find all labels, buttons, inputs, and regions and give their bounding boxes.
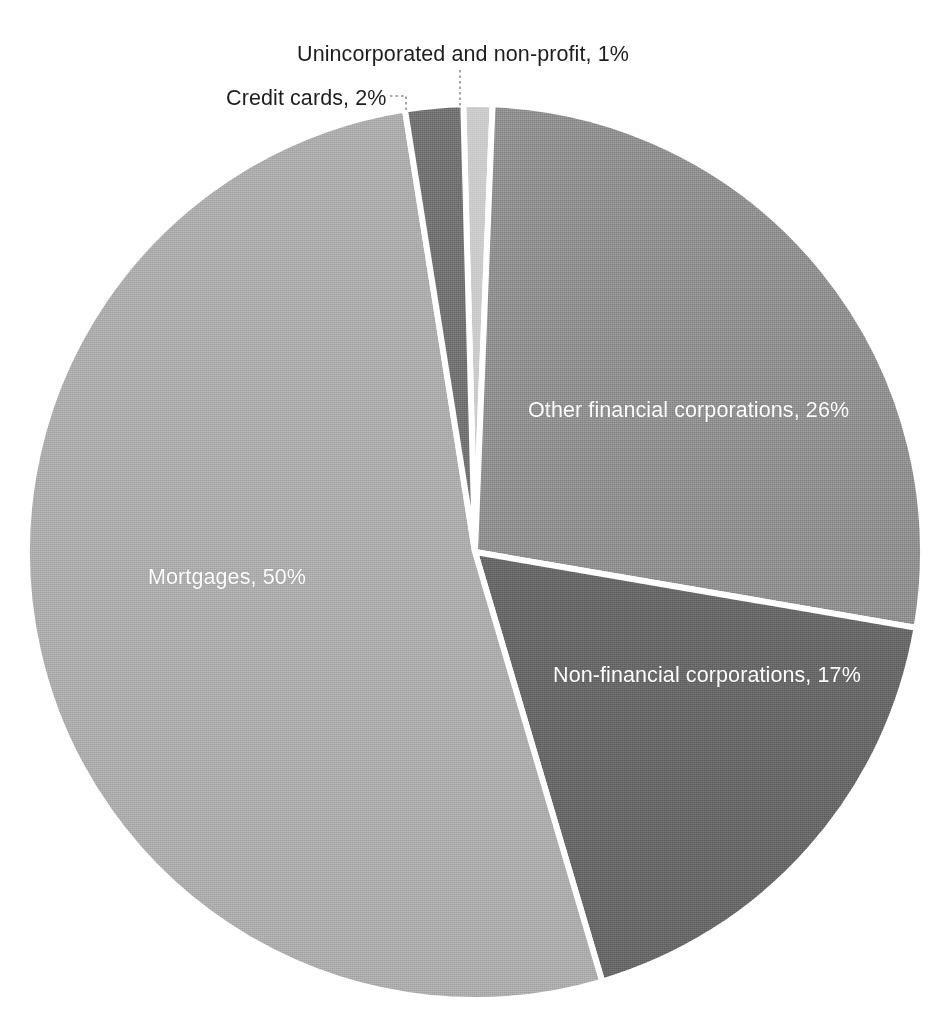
pie-chart: Unincorporated and non-profit, 1% Credit… <box>0 0 950 1026</box>
pie-label-unincorporated-and-non-profit: Unincorporated and non-profit, 1% <box>297 42 629 66</box>
pie-label-mortgages: Mortgages, 50% <box>148 565 306 589</box>
pie-label-credit-cards: Credit cards, 2% <box>226 86 387 110</box>
pie-label-non-financial-corporations: Non-financial corporations, 17% <box>553 663 861 687</box>
paper-grain-texture <box>27 104 923 1000</box>
pie-label-other-financial-corporations: Other financial corporations, 26% <box>528 398 849 422</box>
